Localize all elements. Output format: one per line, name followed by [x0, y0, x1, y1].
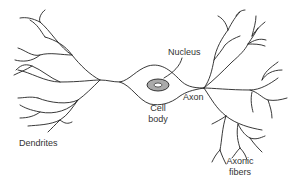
- axonic-fibers: [204, 10, 287, 164]
- nucleus-label: Nucleus: [168, 47, 201, 58]
- nucleolus-shape: [154, 83, 162, 87]
- nucleus-leader: [164, 58, 182, 78]
- axonic-fibers-label-line1: Axonic: [220, 156, 260, 167]
- dendrites: [14, 10, 120, 132]
- cell-body-label-line1: Cell: [146, 103, 170, 114]
- axonic-fibers-label-line2: fibers: [220, 167, 260, 178]
- dendrites-label: Dendrites: [19, 138, 58, 149]
- axon-label: Axon: [183, 92, 204, 103]
- cell-body-label-line2: body: [144, 114, 172, 125]
